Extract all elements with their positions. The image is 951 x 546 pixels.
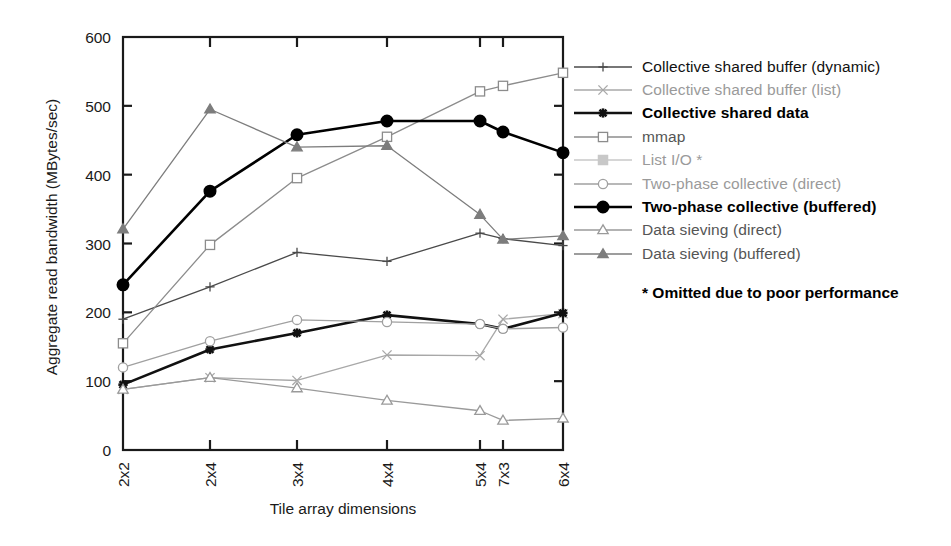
legend-item-label: mmap <box>634 128 685 146</box>
legend-marker-icon <box>572 174 634 194</box>
legend-item-label: Collective shared data <box>634 104 809 122</box>
legend-marker-icon <box>572 127 634 147</box>
y-axis-tick-label: 100 <box>85 373 111 390</box>
legend-item[interactable]: Collective shared buffer (list) <box>572 78 947 101</box>
legend-marker-icon <box>572 244 634 264</box>
legend-item-label: List I/O * <box>634 151 702 169</box>
x-axis-tick-label: 3x4 <box>289 462 306 487</box>
chart-page: 01002003004005006002x22x43x44x45x47x36x4… <box>0 0 951 546</box>
series-line <box>118 104 568 243</box>
legend-item-label: Collective shared buffer (list) <box>634 81 841 99</box>
y-axis-tick-label: 200 <box>85 304 111 321</box>
legend-item[interactable]: mmap <box>572 125 947 148</box>
x-axis-tick-label: 2x2 <box>115 462 132 487</box>
series-line <box>118 68 567 348</box>
y-axis-tick-label: 300 <box>85 236 111 253</box>
y-axis-tick-label: 0 <box>102 442 111 459</box>
legend-footnote: * Omitted due to poor performance <box>572 284 947 302</box>
y-axis-tick-label: 500 <box>85 98 111 115</box>
legend-marker-icon <box>572 57 634 77</box>
y-axis-tick-label: 400 <box>85 167 111 184</box>
legend-marker-icon <box>572 80 634 100</box>
legend-marker-icon <box>572 197 634 217</box>
legend: Collective shared buffer (dynamic)Collec… <box>572 55 947 302</box>
legend-marker-icon <box>572 150 634 170</box>
series-line <box>118 373 568 425</box>
legend-item[interactable]: Data sieving (direct) <box>572 219 947 242</box>
legend-item[interactable]: List I/O * <box>572 149 947 172</box>
legend-marker-icon <box>572 103 634 123</box>
legend-item[interactable]: Collective shared data <box>572 102 947 125</box>
legend-item[interactable]: Two-phase collective (direct) <box>572 172 947 195</box>
legend-item-label: Data sieving (buffered) <box>634 245 801 263</box>
x-axis-tick-label: 6x4 <box>555 462 572 487</box>
x-axis-tick-label: 7x3 <box>495 462 512 487</box>
legend-item-label: Data sieving (direct) <box>634 221 782 239</box>
y-axis-tick-label: 600 <box>85 29 111 46</box>
legend-item-label: Two-phase collective (buffered) <box>634 198 877 216</box>
legend-item[interactable]: Collective shared buffer (dynamic) <box>572 55 947 78</box>
legend-item-label: Two-phase collective (direct) <box>634 175 841 193</box>
x-axis-title: Tile array dimensions <box>123 500 563 518</box>
x-axis-tick-label: 5x4 <box>472 462 489 487</box>
x-axis-tick-label: 4x4 <box>379 462 396 487</box>
legend-item[interactable]: Data sieving (buffered) <box>572 242 947 265</box>
legend-item[interactable]: Two-phase collective (buffered) <box>572 195 947 218</box>
legend-marker-icon <box>572 220 634 240</box>
series-line <box>118 116 568 290</box>
x-axis-tick-label: 2x4 <box>202 462 219 487</box>
legend-item-label: Collective shared buffer (dynamic) <box>634 58 880 76</box>
y-axis-title: Aggregate read bandwidth (MBytes/sec) <box>43 67 61 407</box>
